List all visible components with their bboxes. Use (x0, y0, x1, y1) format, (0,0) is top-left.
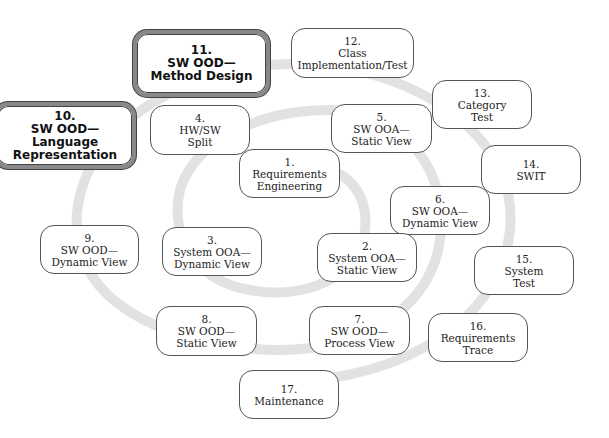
step-label: Test (471, 111, 493, 123)
step-label: SW OOD— (331, 325, 388, 337)
step-label: Static View (337, 264, 397, 276)
step-label: Requirements (441, 332, 516, 344)
step-label: Process View (324, 337, 395, 349)
step-number: 12. (344, 35, 361, 47)
step-label: System OOA— (173, 246, 251, 258)
step-label: Dynamic View (52, 256, 128, 268)
step-label: Category (458, 99, 507, 111)
step-number: 9. (84, 232, 94, 244)
step-number: 3. (207, 234, 217, 246)
step-number: 2. (362, 240, 372, 252)
step-13-node: 13. Category Test (432, 80, 532, 129)
step-number: 6. (435, 193, 445, 205)
step-label: Test (513, 277, 535, 289)
step-number: 13. (474, 87, 491, 99)
step-label: Static View (176, 337, 236, 349)
step-14-node: 14. SWIT (481, 145, 581, 194)
step-label: SW OOA— (353, 123, 410, 135)
step-2-node: 2. System OOA— Static View (317, 233, 417, 282)
step-label: Representation (13, 149, 117, 162)
step-label: Dynamic View (402, 217, 478, 229)
step-8-node: 8. SW OOD— Static View (156, 306, 257, 356)
step-5-node: 5. SW OOA— Static View (331, 104, 432, 153)
step-17-node: 17. Maintenance (239, 370, 339, 419)
step-label: SW OOA— (412, 205, 469, 217)
step-label: SW OOD— (61, 244, 118, 256)
step-label: Class (338, 47, 366, 59)
step-label: Split (188, 136, 213, 148)
step-7-node: 7. SW OOD— Process View (309, 306, 410, 355)
step-4-node: 4. HW/SW Split (150, 105, 250, 155)
step-number: 5. (376, 111, 386, 123)
step-number: 15. (516, 253, 533, 265)
step-number: 7. (354, 313, 364, 325)
step-15-node: 15. System Test (474, 246, 574, 295)
step-number: 8. (201, 313, 211, 325)
step-label: Maintenance (254, 395, 323, 407)
step-6-node: 6. SW OOA— Dynamic View (390, 186, 490, 235)
step-number: 10. (54, 110, 75, 123)
step-label: Implementation/Test (297, 59, 407, 71)
step-label: System OOA— (328, 252, 406, 264)
step-label: System (505, 265, 544, 277)
step-number: 1. (284, 156, 294, 168)
step-9-node: 9. SW OOD— Dynamic View (40, 225, 139, 274)
step-label: Dynamic View (174, 258, 250, 270)
step-label: Static View (351, 135, 411, 147)
step-label: SW OOD— (178, 325, 235, 337)
step-label: SW OOD— (31, 123, 99, 136)
step-12-node: 12. Class Implementation/Test (291, 28, 414, 78)
step-11-node: 11. SW OOD— Method Design (133, 30, 270, 97)
step-number: 17. (281, 383, 298, 395)
step-label: Requirements (252, 168, 327, 180)
step-label: HW/SW (179, 124, 220, 136)
step-number: 16. (470, 320, 487, 332)
step-label: Method Design (151, 70, 253, 83)
step-number: 4. (195, 112, 205, 124)
step-label: SWIT (516, 170, 545, 182)
step-label: Engineering (257, 180, 323, 192)
step-label: Language (32, 136, 98, 149)
step-number: 14. (523, 158, 540, 170)
step-label: Trace (463, 344, 493, 356)
step-10-node: 10. SW OOD— Language Representation (0, 102, 136, 169)
step-16-node: 16. Requirements Trace (428, 313, 528, 362)
step-1-node: 1. Requirements Engineering (239, 149, 340, 198)
step-3-node: 3. System OOA— Dynamic View (162, 227, 262, 276)
